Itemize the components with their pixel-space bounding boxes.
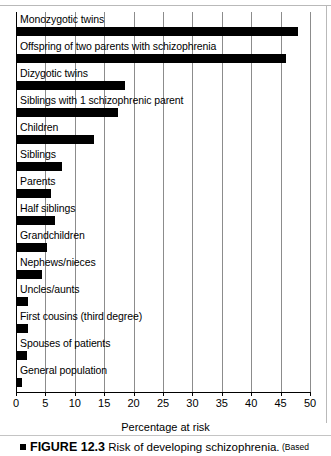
bar-label: Offspring of two parents with schizophre… (20, 39, 216, 53)
x-tick (16, 392, 17, 396)
gridline-50 (310, 12, 311, 392)
figure-container: Monozygotic twinsOffspring of two parent… (0, 0, 331, 456)
x-tick-label: 50 (304, 397, 316, 410)
bar-label: Dizygotic twins (20, 66, 88, 80)
x-axis: 05101520253035404550 (16, 392, 310, 422)
x-tick (134, 392, 135, 396)
bar (16, 189, 51, 198)
bar-label: Nephews/nieces (20, 255, 96, 269)
bar-row: Spouses of patients (16, 336, 310, 363)
x-tick-label: 10 (69, 397, 81, 410)
bar-label: Spouses of patients (20, 336, 110, 350)
x-tick (104, 392, 105, 396)
bar-label: First cousins (third degree) (20, 309, 142, 323)
bar (16, 216, 55, 225)
bar-row: Siblings with 1 schizophrenic parent (16, 93, 310, 120)
bar (16, 324, 28, 333)
x-tick-label: 5 (42, 397, 48, 410)
x-tick (192, 392, 193, 396)
bar-row: Nephews/nieces (16, 255, 310, 282)
bar-label: Siblings with 1 schizophrenic parent (20, 93, 183, 107)
caption-marker-icon (20, 444, 26, 450)
bar-row: General population (16, 363, 310, 390)
bar-label: Children (20, 120, 58, 134)
bar-row: Parents (16, 174, 310, 201)
x-tick (310, 392, 311, 396)
x-tick-label: 25 (157, 397, 169, 410)
bar-label: Uncles/aunts (20, 282, 80, 296)
x-tick-label: 45 (274, 397, 286, 410)
bar-row: Grandchildren (16, 228, 310, 255)
bar (16, 108, 118, 117)
x-tick-label: 20 (127, 397, 139, 410)
bar-row: Children (16, 120, 310, 147)
bar (16, 81, 125, 90)
bar-label: Monozygotic twins (20, 12, 104, 26)
bar (16, 135, 94, 144)
bar-row: Uncles/aunts (16, 282, 310, 309)
x-tick (163, 392, 164, 396)
x-tick (251, 392, 252, 396)
page-top-rule (0, 5, 331, 6)
bar-row: Monozygotic twins (16, 12, 310, 39)
bar (16, 297, 28, 306)
bar-row: Offspring of two parents with schizophre… (16, 39, 310, 66)
x-tick (281, 392, 282, 396)
bar (16, 270, 42, 279)
x-tick-label: 30 (186, 397, 198, 410)
bar (16, 54, 286, 63)
page-right-rule (326, 5, 327, 423)
figure-caption: FIGURE 12.3 Risk of developing schizophr… (20, 439, 326, 454)
bar (16, 243, 47, 252)
x-axis-label: Percentage at risk (0, 421, 331, 433)
bar-label: Parents (20, 174, 56, 188)
bar-rows-group: Monozygotic twinsOffspring of two parent… (16, 12, 310, 392)
caption-rule (0, 435, 331, 436)
bar (16, 27, 298, 36)
x-tick-label: 35 (216, 397, 228, 410)
caption-figure-number: FIGURE 12.3 (30, 440, 105, 454)
bar-row: Siblings (16, 147, 310, 174)
x-tick-label: 15 (98, 397, 110, 410)
chart-plot-area: Monozygotic twinsOffspring of two parent… (16, 12, 310, 392)
bar (16, 351, 27, 360)
x-tick (222, 392, 223, 396)
caption-title-text: Risk of developing schizophrenia. (108, 441, 279, 453)
bar-label: Grandchildren (20, 228, 85, 242)
bar (16, 378, 22, 387)
x-tick (45, 392, 46, 396)
bar-label: General population (20, 363, 107, 377)
caption-source-text: (Based (282, 442, 309, 452)
bar-row: Half siblings (16, 201, 310, 228)
bar-label: Half siblings (20, 201, 75, 215)
x-tick (75, 392, 76, 396)
bar (16, 162, 62, 171)
bar-label: Siblings (20, 147, 56, 161)
x-tick-label: 40 (245, 397, 257, 410)
bar-row: First cousins (third degree) (16, 309, 310, 336)
bar-row: Dizygotic twins (16, 66, 310, 93)
x-tick-label: 0 (13, 397, 19, 410)
